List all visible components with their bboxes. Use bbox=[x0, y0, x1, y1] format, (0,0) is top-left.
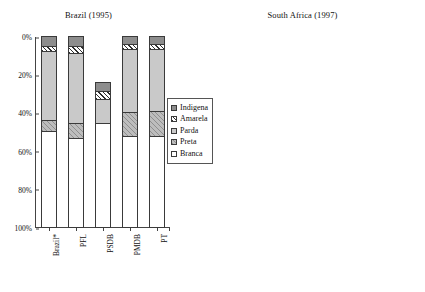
bar-segment[interactable] bbox=[68, 123, 84, 139]
figure-two-stacked-bar-charts: Brazil (1995) 100%80%60%40%20%0%Brazil*P… bbox=[0, 0, 425, 292]
bar-segment[interactable] bbox=[149, 136, 165, 228]
y-axis-tick-label: 80% bbox=[18, 185, 36, 194]
chart-title-brazil: Brazil (1995) bbox=[0, 10, 215, 20]
y-axis-tick-label: 40% bbox=[18, 109, 36, 118]
legend-swatch-icon bbox=[171, 105, 177, 111]
x-axis-label: PSDB bbox=[106, 234, 115, 253]
stacked-bar[interactable] bbox=[95, 36, 111, 227]
y-axis-tick-label: 20% bbox=[18, 71, 36, 80]
legend-swatch-icon bbox=[171, 128, 177, 134]
x-axis-label: PFL bbox=[79, 234, 88, 247]
legend-brazil: IndigenaAmarelaPardaPretaBranca bbox=[167, 98, 213, 164]
bar-segment[interactable] bbox=[95, 123, 111, 228]
legend-swatch-icon bbox=[171, 139, 177, 145]
chart-title-south-africa: South Africa (1997) bbox=[210, 10, 425, 20]
plot-area-brazil: 100%80%60%40%20%0%Brazil*PFLPSDBPMDBPT bbox=[35, 37, 169, 228]
legend-swatch-icon bbox=[171, 116, 177, 122]
legend-item[interactable]: Indigena bbox=[171, 102, 208, 114]
bar-segment[interactable] bbox=[95, 99, 111, 124]
legend-item-label: Preta bbox=[180, 138, 196, 146]
bar-segment[interactable] bbox=[68, 53, 84, 124]
x-axis-label: Brazil* bbox=[52, 234, 61, 256]
x-axis-label: PT bbox=[160, 234, 169, 243]
legend-item-label: Parda bbox=[180, 127, 198, 135]
legend-item-label: Amarela bbox=[180, 115, 208, 123]
bar-segment[interactable] bbox=[41, 51, 57, 121]
legend-item[interactable]: Branca bbox=[171, 148, 208, 160]
stacked-bar[interactable] bbox=[68, 36, 84, 227]
y-axis-tick-label: 0% bbox=[22, 33, 36, 42]
bar-segment[interactable] bbox=[149, 49, 165, 111]
bar-segment[interactable] bbox=[149, 111, 165, 138]
stacked-bar[interactable] bbox=[41, 36, 57, 227]
legend-item[interactable]: Amarela bbox=[171, 114, 208, 126]
bar-segment[interactable] bbox=[41, 131, 57, 228]
legend-item[interactable]: Preta bbox=[171, 137, 208, 149]
x-axis-tick-mark bbox=[169, 227, 170, 231]
chart-panel-south-africa: South Africa (1997) 100%80%60%40%20%0%S.… bbox=[210, 0, 425, 292]
bar-segment[interactable] bbox=[68, 138, 84, 228]
y-axis-tick-label: 60% bbox=[18, 147, 36, 156]
bar-segment[interactable] bbox=[122, 136, 138, 228]
legend-item-label: Indigena bbox=[180, 104, 208, 112]
bar-segment[interactable] bbox=[122, 112, 138, 137]
stacked-bar[interactable] bbox=[149, 36, 165, 227]
legend-item-label: Branca bbox=[180, 150, 203, 158]
bar-segment[interactable] bbox=[122, 49, 138, 113]
y-axis-tick-label: 100% bbox=[15, 224, 37, 233]
legend-swatch-icon bbox=[171, 151, 177, 157]
stacked-bar[interactable] bbox=[122, 36, 138, 227]
x-axis-label: PMDB bbox=[133, 234, 142, 255]
legend-item[interactable]: Parda bbox=[171, 125, 208, 137]
chart-panel-brazil: Brazil (1995) 100%80%60%40%20%0%Brazil*P… bbox=[0, 0, 215, 292]
